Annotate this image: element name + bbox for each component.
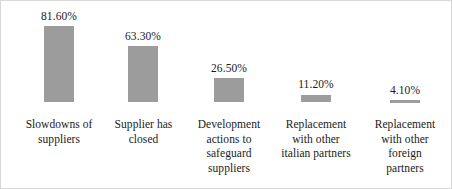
bar-value-label: 11.20%: [286, 78, 346, 91]
category-line: suppliers: [186, 161, 272, 176]
category-line: foreign: [361, 146, 449, 161]
category-label-supplier-has-closed: Supplier has closed: [96, 117, 191, 146]
bar-development-actions-to-safeguard-suppliers: [214, 78, 244, 102]
bar-value-label: 63.30%: [113, 30, 173, 43]
bar-slowdowns-of-suppliers: [44, 26, 74, 102]
category-line: Replacement: [361, 117, 449, 132]
bar-value-label: 26.50%: [199, 62, 259, 75]
bar-chart: 81.60% Slowdowns of suppliers 63.30% Sup…: [0, 0, 452, 189]
bar-value-label: 81.60%: [29, 10, 89, 23]
category-line: Supplier has: [96, 117, 191, 132]
category-line: with other: [361, 132, 449, 147]
category-label-replacement-with-other-italian-partners: Replacement with other italian partners: [272, 117, 360, 161]
category-line: italian partners: [272, 146, 360, 161]
category-line: suppliers: [9, 132, 109, 147]
category-line: Slowdowns of: [9, 117, 109, 132]
category-line: with other: [272, 132, 360, 147]
bar-supplier-has-closed: [128, 46, 158, 102]
category-line: partners: [361, 161, 449, 176]
bar-replacement-with-other-foreign-partners: [390, 100, 420, 103]
category-label-slowdowns-of-suppliers: Slowdowns of suppliers: [9, 117, 109, 146]
bar-replacement-with-other-italian-partners: [301, 95, 331, 102]
category-line: actions to: [186, 132, 272, 147]
category-line: closed: [96, 132, 191, 147]
category-line: Development: [186, 117, 272, 132]
plot-area: 81.60% Slowdowns of suppliers 63.30% Sup…: [1, 1, 452, 189]
category-label-replacement-with-other-foreign-partners: Replacement with other foreign partners: [361, 117, 449, 175]
bar-value-label: 4.10%: [376, 84, 434, 97]
category-line: Replacement: [272, 117, 360, 132]
category-label-development-actions-to-safeguard-suppliers: Development actions to safeguard supplie…: [186, 117, 272, 175]
category-line: safeguard: [186, 146, 272, 161]
